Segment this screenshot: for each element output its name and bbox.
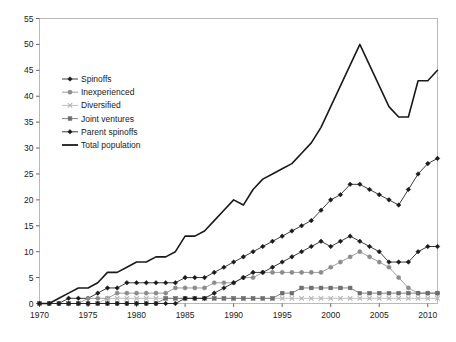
- y-axis-tick-label: 5: [29, 273, 34, 283]
- line-chart: 0510152025303540455055 19701975198019851…: [0, 0, 456, 342]
- data-point: [377, 260, 381, 264]
- x-axis-tick-label: 1990: [224, 310, 243, 320]
- data-point: [212, 296, 216, 300]
- data-point: [193, 286, 197, 290]
- y-axis-tick-label: 35: [24, 117, 34, 127]
- data-point: [406, 187, 411, 192]
- data-point: [173, 286, 177, 290]
- data-point: [68, 90, 72, 94]
- y-axis-tick-label: 15: [24, 221, 34, 231]
- data-point: [174, 296, 178, 300]
- data-point: [96, 296, 100, 300]
- data-point: [241, 255, 246, 260]
- x-axis-tick-label: 2000: [321, 310, 340, 320]
- data-point: [309, 244, 314, 249]
- data-point: [348, 234, 353, 239]
- data-point: [299, 223, 304, 228]
- data-point: [339, 286, 343, 290]
- legend-item-joint-ventures[interactable]: Joint ventures: [62, 114, 134, 124]
- data-point: [435, 156, 440, 161]
- data-point: [134, 280, 139, 285]
- data-point: [280, 234, 285, 239]
- data-point: [232, 296, 236, 300]
- data-point: [406, 286, 410, 290]
- legend-item-parent-spinoffs[interactable]: Parent spinoffs: [62, 127, 138, 137]
- data-point: [280, 291, 284, 295]
- data-point: [251, 296, 255, 300]
- y-axis-tick-label: 25: [24, 169, 34, 179]
- data-point: [319, 239, 324, 244]
- data-point: [348, 255, 352, 259]
- data-point: [367, 187, 372, 192]
- data-point: [319, 286, 323, 290]
- x-axis-tick-label: 1995: [273, 310, 292, 320]
- legend-item-inexperienced[interactable]: Inexperienced: [62, 87, 135, 97]
- data-point: [387, 265, 391, 269]
- data-point: [358, 239, 363, 244]
- legend-item-spinoffs[interactable]: Spinoffs: [62, 74, 112, 84]
- data-point: [299, 270, 303, 274]
- data-point: [212, 270, 217, 275]
- data-point: [270, 270, 274, 274]
- x-axis-tick-label: 1980: [127, 310, 146, 320]
- data-point: [251, 270, 256, 275]
- data-point: [416, 291, 420, 295]
- data-point: [105, 286, 110, 291]
- data-point: [241, 296, 245, 300]
- data-point: [231, 260, 236, 265]
- data-point: [222, 296, 226, 300]
- data-point: [280, 270, 284, 274]
- data-point: [329, 265, 333, 269]
- data-point: [144, 291, 148, 295]
- legend-label: Parent spinoffs: [81, 127, 138, 137]
- data-point: [358, 182, 363, 187]
- data-point: [164, 291, 168, 295]
- legend-label: Joint ventures: [81, 114, 134, 124]
- y-axis-tick-label: 50: [24, 39, 34, 49]
- data-point: [290, 291, 294, 295]
- x-axis-ticks: 197019751980198519901995200020052010: [30, 304, 437, 320]
- series-inexperienced: [37, 250, 439, 306]
- data-point: [270, 265, 275, 270]
- y-axis-tick-label: 20: [24, 195, 34, 205]
- data-point: [299, 249, 304, 254]
- y-axis-tick-label: 45: [24, 65, 34, 75]
- data-point: [86, 296, 90, 300]
- data-point: [338, 239, 343, 244]
- legend-label: Diversified: [81, 100, 121, 110]
- data-point: [260, 244, 265, 249]
- data-point: [328, 244, 333, 249]
- data-point: [271, 296, 275, 300]
- data-point: [367, 255, 371, 259]
- data-point: [212, 291, 217, 296]
- data-point: [212, 281, 216, 285]
- data-point: [397, 275, 401, 279]
- x-axis-tick-label: 1970: [30, 310, 49, 320]
- data-point: [154, 291, 158, 295]
- y-axis-tick-label: 40: [24, 91, 34, 101]
- legend-item-diversified[interactable]: Diversified: [62, 100, 121, 110]
- data-point: [66, 296, 71, 301]
- data-point: [396, 203, 401, 208]
- data-point: [134, 291, 138, 295]
- data-point: [125, 280, 130, 285]
- data-point: [358, 291, 362, 295]
- chart-container: 0510152025303540455055 19701975198019851…: [0, 0, 456, 342]
- data-point: [387, 291, 391, 295]
- data-point: [396, 260, 401, 265]
- legend-label: Spinoffs: [81, 74, 112, 84]
- data-point: [193, 275, 198, 280]
- data-point: [309, 270, 313, 274]
- data-point: [426, 291, 430, 295]
- data-point: [202, 286, 206, 290]
- data-point: [115, 291, 119, 295]
- data-point: [68, 130, 73, 135]
- chart-legend: SpinoffsInexperiencedDiversifiedJoint ve…: [62, 74, 141, 150]
- legend-item-total-population[interactable]: Total population: [62, 140, 141, 150]
- x-axis-tick-label: 1975: [79, 310, 98, 320]
- data-point: [329, 286, 333, 290]
- data-point: [270, 239, 275, 244]
- x-axis-tick-label: 2010: [418, 310, 437, 320]
- data-point: [358, 250, 362, 254]
- data-point: [251, 249, 256, 254]
